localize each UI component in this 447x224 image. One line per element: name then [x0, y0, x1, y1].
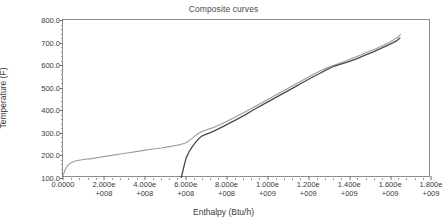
x-axis-tick-exponent: +009	[256, 189, 279, 198]
x-axis-tick-exponent: +008	[215, 189, 238, 198]
x-axis-tick-label: 0.0000	[52, 180, 75, 189]
y-axis-minor-tick	[61, 115, 63, 116]
x-axis-minor-tick	[137, 178, 138, 180]
x-axis-tick-mark	[227, 176, 228, 180]
x-axis-minor-tick	[169, 178, 170, 180]
y-axis-minor-tick	[61, 52, 63, 53]
x-axis-minor-tick	[251, 178, 252, 180]
y-axis-tick-label: 600.0	[41, 61, 60, 70]
x-axis-tick-mark	[390, 176, 391, 180]
y-axis-tick-mark	[60, 43, 63, 44]
y-axis-tick-label: 800.0	[41, 16, 60, 25]
y-axis-minor-tick	[61, 25, 63, 26]
x-axis-tick-exponent: +009	[420, 189, 443, 198]
y-axis-minor-tick	[61, 137, 63, 138]
chart-title: Composite curves	[0, 4, 447, 14]
x-axis-minor-tick	[300, 178, 301, 180]
y-axis-minor-tick	[61, 47, 63, 48]
y-axis-tick-mark	[60, 155, 63, 156]
x-axis-tick-mark	[145, 176, 146, 180]
x-axis-tick-mantissa: 1.800e	[420, 180, 443, 189]
x-axis-minor-tick	[112, 178, 113, 180]
x-axis-minor-tick	[161, 178, 162, 180]
y-axis-tick-label: 400.0	[41, 106, 60, 115]
x-axis-tick-exponent: +008	[92, 189, 115, 198]
y-axis-minor-tick	[61, 38, 63, 39]
y-axis-minor-tick	[61, 70, 63, 71]
y-axis-minor-tick	[61, 146, 63, 147]
y-axis-tick-label: 700.0	[41, 38, 60, 47]
x-axis-tick-mark	[349, 176, 350, 180]
y-axis-minor-tick	[61, 29, 63, 30]
x-axis-minor-tick	[398, 178, 399, 180]
y-axis-title: Temperature (F)	[0, 68, 8, 129]
x-axis-tick-mark	[267, 176, 268, 180]
y-axis-minor-tick	[61, 79, 63, 80]
y-axis-minor-tick	[61, 61, 63, 62]
y-axis-minor-tick	[61, 160, 63, 161]
y-axis-tick-label: 500.0	[41, 83, 60, 92]
x-axis-minor-tick	[333, 178, 334, 180]
x-axis-minor-tick	[259, 178, 260, 180]
x-axis-tick-label: 2.000e+008	[92, 180, 115, 198]
x-axis-tick-label: 1.400e+009	[338, 180, 361, 198]
y-axis-minor-tick	[61, 106, 63, 107]
x-axis-minor-tick	[423, 178, 424, 180]
x-axis-tick-mark	[63, 176, 64, 180]
y-axis-minor-tick	[61, 34, 63, 35]
x-axis-minor-tick	[406, 178, 407, 180]
x-axis-minor-tick	[153, 178, 154, 180]
y-axis-minor-tick	[61, 142, 63, 143]
x-axis-tick-mantissa: 1.200e	[297, 180, 320, 189]
x-axis-minor-tick	[235, 178, 236, 180]
x-axis-minor-tick	[202, 178, 203, 180]
y-axis-minor-tick	[61, 119, 63, 120]
x-axis-minor-tick	[276, 178, 277, 180]
x-axis-minor-tick	[292, 178, 293, 180]
y-axis-tick-mark	[60, 20, 63, 21]
x-axis-tick-exponent: +009	[338, 189, 361, 198]
y-axis-minor-tick	[61, 164, 63, 165]
x-axis-tick-label: 8.000e+008	[215, 180, 238, 198]
x-axis-minor-tick	[218, 178, 219, 180]
x-axis-minor-tick	[128, 178, 129, 180]
y-axis-tick-label: 200.0	[41, 151, 60, 160]
x-axis-tick-mark	[186, 176, 187, 180]
x-axis-tick-mark	[431, 176, 432, 180]
y-axis-minor-tick	[61, 56, 63, 57]
x-axis-minor-tick	[243, 178, 244, 180]
x-axis-minor-tick	[366, 178, 367, 180]
x-axis-minor-tick	[284, 178, 285, 180]
y-axis-minor-tick	[61, 92, 63, 93]
x-axis-minor-tick	[374, 178, 375, 180]
series-line-hot-composite-curve	[63, 35, 400, 176]
x-axis-tick-label: 6.000e+008	[174, 180, 197, 198]
x-axis-tick-label: 1.200e+009	[297, 180, 320, 198]
x-axis-tick-mantissa: 1.400e	[338, 180, 361, 189]
x-axis-tick-mantissa: 1.600e	[379, 180, 402, 189]
plot-lines	[63, 20, 431, 178]
y-axis-tick-mark	[60, 88, 63, 89]
x-axis-tick-mantissa: 0.0000	[52, 180, 75, 189]
x-axis-tick-label: 1.000e+009	[256, 180, 279, 198]
y-axis-minor-tick	[61, 169, 63, 170]
y-axis-tick-label: 300.0	[41, 128, 60, 137]
x-axis-tick-mantissa: 6.000e	[174, 180, 197, 189]
plot-area: 100.0200.0300.0400.0500.0600.0700.0800.0…	[62, 19, 430, 177]
x-axis-tick-exponent: +009	[379, 189, 402, 198]
x-axis-minor-tick	[194, 178, 195, 180]
x-axis-minor-tick	[415, 178, 416, 180]
y-axis-tick-mark	[60, 65, 63, 66]
x-axis-tick-mark	[308, 176, 309, 180]
y-axis-minor-tick	[61, 124, 63, 125]
x-axis-minor-tick	[357, 178, 358, 180]
y-axis-minor-tick	[61, 101, 63, 102]
x-axis-tick-label: 1.600e+009	[379, 180, 402, 198]
x-axis-minor-tick	[177, 178, 178, 180]
x-axis-minor-tick	[210, 178, 211, 180]
x-axis-minor-tick	[96, 178, 97, 180]
x-axis-minor-tick	[382, 178, 383, 180]
x-axis-minor-tick	[120, 178, 121, 180]
x-axis-tick-mantissa: 4.000e	[133, 180, 156, 189]
x-axis-tick-exponent: +009	[297, 189, 320, 198]
